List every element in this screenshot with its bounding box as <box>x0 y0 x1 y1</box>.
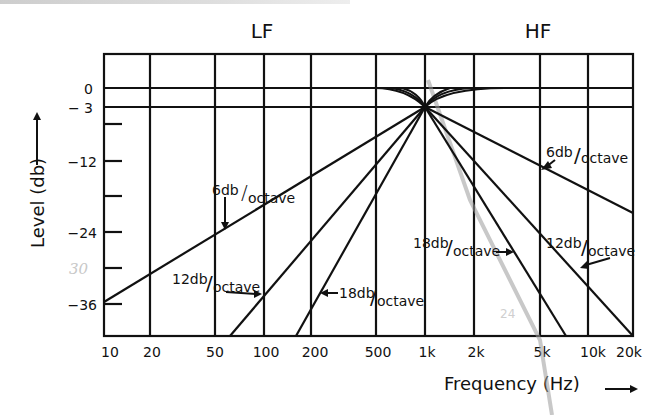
hf-18db-line <box>425 107 566 336</box>
svg-text:6db: 6db <box>212 182 239 198</box>
y-tick-12: −12 <box>67 154 97 170</box>
y-axis-label: Level (db) <box>27 158 48 248</box>
annotation-hf-18db: 18db / octave <box>413 235 514 259</box>
svg-text:12db: 12db <box>546 235 582 251</box>
x-axis-label: Frequency (Hz) <box>444 373 580 394</box>
handwritten-24: 24 <box>500 307 515 321</box>
svg-text:octave: octave <box>581 150 628 166</box>
svg-text:/: / <box>581 235 588 259</box>
svg-text:/: / <box>446 235 453 259</box>
annotation-lf-18db: 18db / octave <box>320 285 424 309</box>
x-tick-2k: 2k <box>467 344 485 360</box>
crossover-knee-curves <box>375 88 505 107</box>
svg-text:/: / <box>370 285 377 309</box>
x-tick-500: 500 <box>365 344 392 360</box>
svg-text:octave: octave <box>377 293 424 309</box>
y-tick-24: −24 <box>67 225 97 241</box>
handwritten-30: 30 <box>69 260 89 278</box>
y-axis-title: Level (db) <box>27 112 48 248</box>
svg-text:octave: octave <box>453 243 500 259</box>
x-tick-200: 200 <box>302 344 329 360</box>
x-axis-arrow-icon <box>605 385 638 393</box>
slope-lines <box>104 107 633 336</box>
y-tick-3: − 3 <box>68 100 93 116</box>
x-tick-100: 100 <box>253 344 280 360</box>
svg-text:/: / <box>574 143 581 167</box>
svg-text:octave: octave <box>588 243 635 259</box>
x-axis-labels: 10 20 50 100 200 500 1k 2k 5k 10k 20k <box>101 344 643 360</box>
svg-text:octave: octave <box>248 190 295 206</box>
annotation-hf-6db: 6db / octave <box>541 143 628 170</box>
lf-band-label: LF <box>251 19 274 43</box>
svg-text:/: / <box>206 271 213 295</box>
svg-text:12db: 12db <box>172 271 208 287</box>
svg-text:6db: 6db <box>546 144 573 160</box>
annotation-hf-12db: 12db / octave <box>546 235 635 269</box>
svg-text:/: / <box>241 180 248 204</box>
crossover-chart: LF HF 0 − 3 −12 −24 −36 30 Level (db) <box>0 0 647 415</box>
x-tick-20: 20 <box>143 344 161 360</box>
y-axis-labels: 0 − 3 −12 −24 −36 <box>67 81 97 313</box>
x-tick-20k: 20k <box>616 344 643 360</box>
x-tick-1k: 1k <box>418 344 436 360</box>
x-tick-10k: 10k <box>580 344 607 360</box>
x-tick-50: 50 <box>206 344 224 360</box>
y-tick-0: 0 <box>84 81 93 97</box>
hf-12db-line <box>425 107 633 336</box>
hf-band-label: HF <box>525 19 552 43</box>
x-tick-10: 10 <box>101 344 119 360</box>
annotation-lf-12db: 12db / octave <box>172 271 262 298</box>
svg-text:18db: 18db <box>413 235 449 251</box>
annotation-lf-6db: 6db / octave <box>212 180 295 230</box>
y-tick-36: −36 <box>67 297 97 313</box>
